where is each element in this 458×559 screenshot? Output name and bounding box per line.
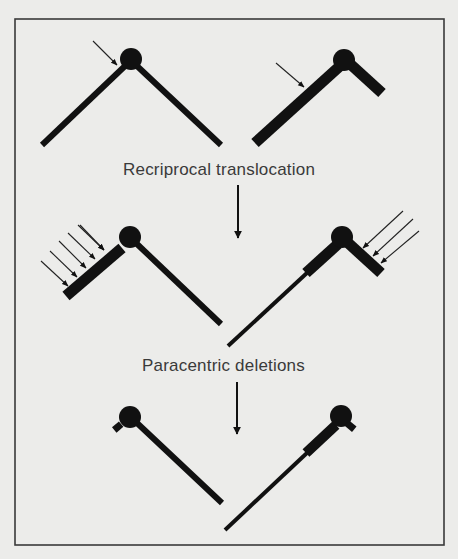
deletion-arrow-icon — [363, 211, 403, 248]
centromere — [119, 406, 141, 428]
stage-1-original — [42, 41, 382, 145]
chromosome-right-translocated — [228, 226, 381, 346]
break-arrow-icon — [93, 41, 117, 65]
chromosome-right-deleted — [225, 405, 357, 530]
deletion-arrow-icon — [80, 225, 104, 250]
centromere — [331, 226, 353, 248]
centromere — [120, 48, 142, 70]
stage-3-deleted — [112, 405, 357, 530]
chromosome-left-deleted — [112, 406, 222, 503]
chromosome-left-original — [42, 48, 221, 145]
deletion-arrow-icon — [381, 231, 419, 263]
label-paracentric-deletions: Paracentric deletions — [142, 356, 305, 376]
break-arrow-icon — [276, 63, 304, 87]
stage-2-translocated — [41, 211, 419, 346]
chromosome-left-translocated — [66, 226, 221, 324]
chromosome-translocation-diagram — [0, 0, 458, 559]
centromere — [333, 49, 355, 71]
deletion-arrows-right — [363, 211, 419, 263]
centromere — [119, 226, 141, 248]
deletion-arrow-icon — [373, 219, 413, 256]
label-reciprocal-translocation: Recriprocal translocation — [123, 160, 315, 180]
chromosome-right-original — [255, 49, 382, 143]
